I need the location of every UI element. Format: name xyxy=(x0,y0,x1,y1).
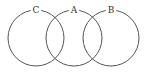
circle-b xyxy=(83,10,139,66)
circle-a xyxy=(46,10,102,66)
label-a: A xyxy=(70,5,78,15)
circle-c xyxy=(8,10,64,66)
label-b: B xyxy=(108,5,115,15)
label-c: C xyxy=(33,5,40,15)
venn-diagram: C A B xyxy=(0,0,148,73)
